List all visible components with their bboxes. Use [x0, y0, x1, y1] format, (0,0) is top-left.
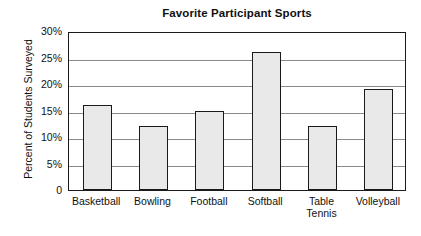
x-tick-label-line: Table: [293, 195, 349, 207]
x-tick-label: TableTennis: [293, 195, 349, 219]
gridline: [69, 113, 405, 114]
x-tick-label-line: Bowling: [124, 195, 180, 207]
x-tick-label-line: Softball: [237, 195, 293, 207]
bar: [252, 52, 281, 190]
gridline: [69, 60, 405, 61]
x-tick-label-line: Football: [181, 195, 237, 207]
x-tick-label: Volleyball: [350, 195, 406, 207]
gridline: [69, 166, 405, 167]
x-tick-label: Bowling: [124, 195, 180, 207]
x-tick-label-line: Tennis: [293, 207, 349, 219]
bar: [364, 89, 393, 190]
bar: [83, 105, 112, 190]
bar: [195, 111, 224, 191]
x-tick-label: Football: [181, 195, 237, 207]
y-axis-label: Percent of Students Surveyed: [22, 19, 34, 199]
gridline: [69, 139, 405, 140]
x-tick-label: Softball: [237, 195, 293, 207]
x-tick-label: Basketball: [68, 195, 124, 207]
bar-chart: Favorite Participant Sports Percent of S…: [0, 0, 421, 236]
chart-title: Favorite Participant Sports: [68, 7, 406, 19]
x-tick-label-line: Basketball: [68, 195, 124, 207]
plot-area: [68, 32, 406, 191]
gridline: [69, 86, 405, 87]
x-tick-label-line: Volleyball: [350, 195, 406, 207]
bar: [308, 126, 337, 190]
bar: [139, 126, 168, 190]
